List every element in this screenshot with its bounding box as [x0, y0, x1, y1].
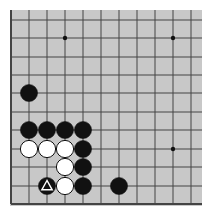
- black-stone: [74, 140, 91, 157]
- star-point: [171, 36, 175, 40]
- black-stone: [110, 177, 127, 194]
- go-board: [0, 0, 213, 212]
- black-stone: [74, 158, 91, 175]
- black-stone: [20, 84, 37, 101]
- white-stone: [56, 177, 73, 194]
- white-stone: [56, 158, 73, 175]
- white-stone: [20, 140, 37, 157]
- black-stone: [38, 121, 55, 138]
- white-stone: [56, 140, 73, 157]
- black-stone: [20, 121, 37, 138]
- white-stone: [38, 140, 55, 157]
- star-point: [63, 36, 67, 40]
- black-stone: [74, 177, 91, 194]
- black-stone: [74, 121, 91, 138]
- black-stone: [56, 121, 73, 138]
- star-point: [171, 147, 175, 151]
